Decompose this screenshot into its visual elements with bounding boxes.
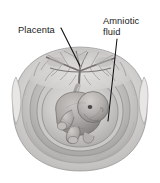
placenta-label: Placenta	[18, 25, 56, 35]
fetus-uterus-illustration: Placenta Amniotic fluid	[0, 0, 160, 183]
fetal-hand	[57, 122, 66, 130]
amniotic-fluid-label-line1: Amniotic	[103, 16, 140, 26]
amniotic-fluid-label-line2: fluid	[103, 27, 120, 37]
illustration-canvas: Placenta Amniotic fluid	[0, 0, 160, 183]
fetal-head	[78, 92, 109, 123]
fetal-eye	[88, 105, 93, 109]
fetal-foot	[68, 136, 78, 143]
